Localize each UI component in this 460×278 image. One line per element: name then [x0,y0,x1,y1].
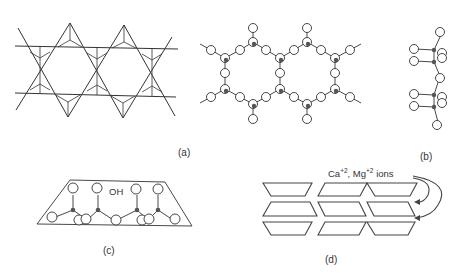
hydroxyl-annotation: OH [109,186,123,197]
panel-label-b: (b) [420,151,432,162]
panel-label-c: (c) [103,245,115,256]
ions-suffix: ions [376,168,393,179]
panel-label-d: (d) [325,254,337,265]
ion-calcium: Ca [328,168,340,179]
silicate-ring-network [200,24,361,124]
ion-magnesium: Mg [353,168,366,179]
diagram-canvas [0,0,460,278]
chain-side-view [410,28,447,130]
ion-magnesium-charge: +2 [366,167,373,174]
panel-label-a: (a) [178,147,190,158]
stacked-layers [263,176,442,235]
tetrahedral-sheet-star-net [15,23,178,118]
ions-annotation: Ca+2, Mg+2 ions [328,167,394,179]
ion-calcium-charge: +2 [340,167,347,174]
